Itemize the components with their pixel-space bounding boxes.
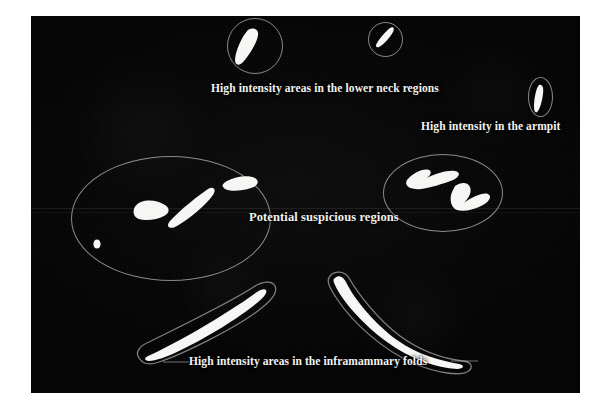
- figure-root: High intensity areas in the lower neck r…: [0, 0, 603, 415]
- marker-ellipse-suspicious-right: [383, 154, 503, 232]
- label-lower-neck: High intensity areas in the lower neck r…: [211, 82, 439, 94]
- contour-inframammary-left: [137, 282, 275, 364]
- label-armpit: High intensity in the armpit: [421, 120, 561, 132]
- thermogram-scan-image: High intensity areas in the lower neck r…: [31, 16, 580, 393]
- label-suspicious-regions: Potential suspicious regions: [249, 210, 399, 225]
- marker-ellipse-armpit: [528, 77, 553, 117]
- marker-circle-lower-neck-right: [368, 22, 403, 57]
- label-inframammary-folds: High intensity areas in the inframammary…: [189, 355, 427, 367]
- hotspot-inframammary-left: [145, 289, 266, 361]
- marker-ellipse-suspicious-left: [71, 156, 271, 281]
- marker-circle-lower-neck-left: [227, 18, 283, 74]
